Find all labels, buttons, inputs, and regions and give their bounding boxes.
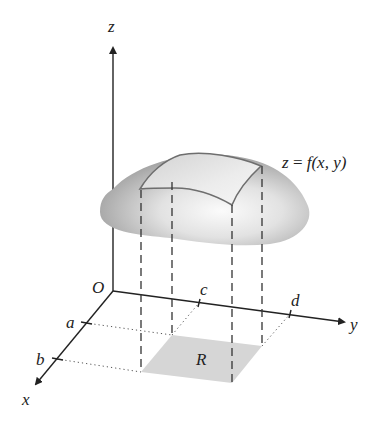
tick-label-a: a	[66, 313, 75, 332]
surface-over-rectangle-diagram: z x y O a b c d z = f(x, y) R	[0, 0, 385, 433]
tick-label-b: b	[36, 350, 45, 369]
z-axis-label: z	[107, 17, 115, 36]
origin-label: O	[92, 278, 104, 297]
x-axis-label: x	[21, 390, 30, 409]
surface-equation-label: z = f(x, y)	[281, 153, 347, 172]
x-axis	[36, 291, 113, 384]
surface-f	[100, 153, 309, 245]
y-axis-label: y	[348, 315, 358, 334]
tick-label-c: c	[200, 280, 208, 299]
y-axis	[113, 291, 344, 322]
region-label-r: R	[195, 350, 207, 369]
tick-label-d: d	[291, 291, 300, 310]
